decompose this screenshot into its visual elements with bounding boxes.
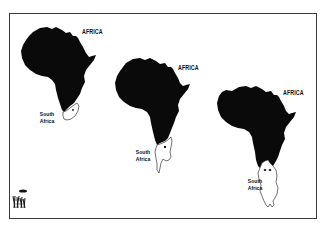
region-label-1-line2: Africa [38, 118, 57, 125]
region-label-1-line1: South [38, 111, 57, 118]
region-label-3-line1: South [246, 178, 265, 185]
artist-signature-icon [12, 188, 28, 210]
region-label-3: South Africa [246, 178, 265, 192]
africa-map-2 [115, 58, 190, 173]
region-label-2: South Africa [134, 149, 153, 163]
region-label-3-line2: Africa [246, 185, 265, 192]
region-label-2-line1: South [134, 149, 153, 156]
continent-label-3: AFRICA [283, 89, 304, 96]
continent-label-2: AFRICA [178, 64, 199, 71]
region-label-1: South Africa [38, 111, 57, 125]
continent-label-1: AFRICA [82, 28, 103, 35]
region-label-2-line2: Africa [134, 156, 153, 163]
africa-map-1 [21, 27, 96, 120]
